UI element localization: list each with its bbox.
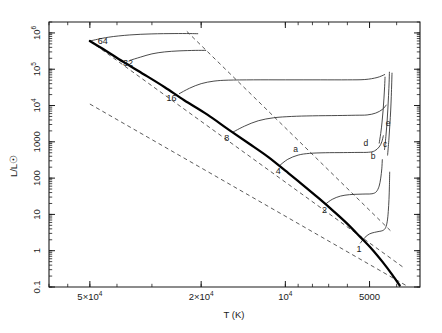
x-tick-label: 2×104 <box>189 290 214 302</box>
hr-diagram-figure: 5×1042×104104500010610510410001001010.1 … <box>0 0 442 333</box>
annotation-a: a <box>293 144 298 154</box>
y-tick-label: 104 <box>30 98 42 113</box>
y-tick-label: 105 <box>30 62 42 77</box>
annotation-e: e <box>386 118 391 128</box>
y-tick-label: 106 <box>30 25 42 40</box>
mass-label-2: 2 <box>322 205 327 215</box>
y-axis-title: L/L☉ <box>8 155 19 177</box>
mass-label-4: 4 <box>276 166 281 176</box>
annotation-b: b <box>371 151 376 161</box>
plot-frame <box>49 22 420 287</box>
x-tick-label: 5×104 <box>77 290 102 302</box>
mass-label-64: 64 <box>98 36 108 46</box>
mass-label-1: 1 <box>357 244 362 254</box>
stellar-evolution-chart: 5×1042×104104500010610510410001001010.1 … <box>0 0 442 333</box>
x-tick-label: 104 <box>278 290 293 302</box>
y-tick-label: 0.1 <box>31 280 42 293</box>
mass-label-16: 16 <box>167 93 177 103</box>
mass-label-8: 8 <box>224 133 229 143</box>
y-tick-label: 10 <box>31 209 42 220</box>
annotation-d: d <box>364 138 369 148</box>
annotation-c: c <box>383 139 388 149</box>
y-tick-label: 1000 <box>31 131 42 152</box>
x-tick-label: 5000 <box>359 291 380 302</box>
y-tick-label: 100 <box>31 170 42 186</box>
x-axis-title: T (K) <box>224 309 245 320</box>
y-tick-label: 1 <box>31 248 42 253</box>
mass-label-32: 32 <box>123 58 133 68</box>
